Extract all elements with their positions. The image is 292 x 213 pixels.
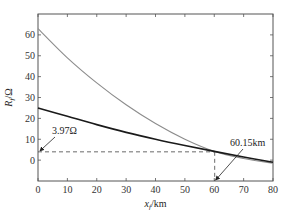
y-tick-label: 30 <box>25 92 35 103</box>
x-tick-label: 80 <box>268 184 278 195</box>
y-tick-label: 60 <box>25 29 35 40</box>
annotation-distance-label: 60.15km <box>230 137 266 148</box>
annotations: 3.97Ω60.15km <box>40 125 266 180</box>
x-tick-label: 40 <box>151 184 161 195</box>
x-tick-label: 30 <box>121 184 131 195</box>
x-axis-label: xf/km <box>144 198 167 211</box>
x-tick-label: 20 <box>92 184 102 195</box>
dashed-guide-lines <box>38 152 215 181</box>
y-tick-label: 50 <box>25 50 35 61</box>
y-axis-label: Rf/Ω <box>3 88 16 107</box>
x-tick-label: 0 <box>36 184 41 195</box>
y-tick-label: 10 <box>25 134 35 145</box>
annotation-resistance-label: 3.97Ω <box>52 125 77 136</box>
chart: 010203040506070800102030405060 3.97Ω60.1… <box>0 0 292 213</box>
x-tick-label: 10 <box>62 184 72 195</box>
axis-ticks: 010203040506070800102030405060 <box>25 14 278 195</box>
x-tick-label: 60 <box>209 184 219 195</box>
y-tick-label: 40 <box>25 71 35 82</box>
x-tick-label: 70 <box>239 184 249 195</box>
x-tick-label: 50 <box>180 184 190 195</box>
y-tick-label: 0 <box>30 155 35 166</box>
y-tick-label: 20 <box>25 113 35 124</box>
axis-labels: xf/kmRf/Ω <box>3 88 167 211</box>
arrow-resistance <box>40 137 55 151</box>
